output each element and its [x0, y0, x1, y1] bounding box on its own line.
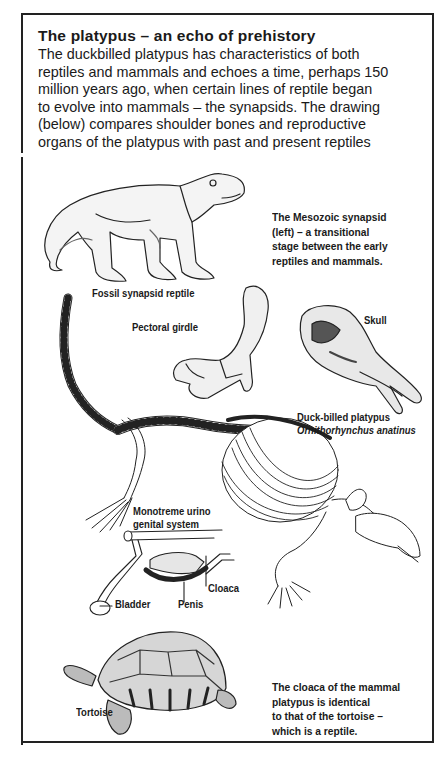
- label-platypus-common: Duck-billed platypus: [297, 411, 390, 423]
- label-fossil-synapsid: Fossil synapsid reptile: [92, 287, 194, 299]
- caption-line: The Mesozoic synapsid: [272, 210, 388, 225]
- caption-line: platypus is identical: [272, 695, 400, 710]
- label-pectoral-girdle: Pectoral girdle: [132, 321, 198, 333]
- label-skull: Skull: [364, 314, 387, 326]
- label-penis: Penis: [178, 598, 203, 610]
- caption-line: to that of the tortoise –: [272, 709, 400, 724]
- caption-line: (left) – a transitional: [272, 225, 388, 240]
- illustrations: [0, 0, 448, 764]
- caption-line: reptiles and mammals.: [272, 254, 388, 269]
- label-platypus-latin: Ornithorhynchus anatinus: [297, 424, 416, 436]
- platypus-skull-drawing: [300, 306, 421, 414]
- caption-line: which is a reptile.: [272, 724, 400, 739]
- caption-line: stage between the early: [272, 239, 388, 254]
- urinogenital-system-diagram: [90, 530, 234, 615]
- synapsid-reptile-drawing: [45, 174, 245, 282]
- label-tortoise: Tortoise: [76, 706, 113, 718]
- tortoise-drawing: [64, 632, 236, 734]
- caption-line: The cloaca of the mammal: [272, 680, 400, 695]
- pectoral-girdle-drawing: [174, 286, 269, 398]
- label-urino-line2: genital system: [133, 518, 199, 530]
- synapsid-caption: The Mesozoic synapsid (left) – a transit…: [272, 210, 388, 268]
- cloaca-caption: The cloaca of the mammal platypus is ide…: [272, 680, 400, 738]
- label-urino-line1: Monotreme urino: [133, 505, 211, 517]
- label-bladder: Bladder: [115, 598, 150, 610]
- label-cloaca: Cloaca: [208, 582, 239, 594]
